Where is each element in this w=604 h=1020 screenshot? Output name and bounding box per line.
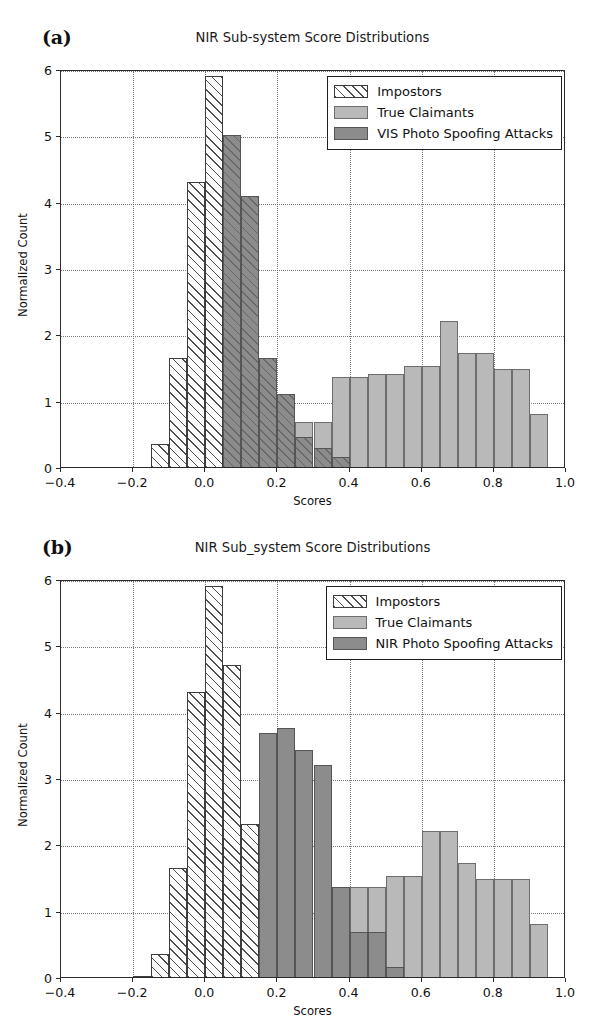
panel-a: (a) NIR Sub-system Score Distributions S… [0, 0, 604, 510]
xaxis-tick-mark [132, 468, 133, 472]
xaxis-tick-label: −0.2 [117, 475, 148, 490]
xaxis-tick-mark [132, 978, 133, 982]
yaxis-tick-mark [56, 335, 60, 336]
gridline-horizontal [61, 204, 564, 205]
legend-swatch-impostors-icon [334, 85, 368, 98]
histogram-bar [422, 831, 440, 977]
xaxis-tick-mark [204, 468, 205, 472]
histogram-bar [386, 967, 404, 977]
xaxis-tick-label: 0.4 [339, 985, 359, 1000]
yaxis-tick-label: 5 [30, 129, 52, 144]
xaxis-tick-label: 0.8 [483, 475, 503, 490]
histogram-bar [223, 665, 241, 977]
histogram-bar [458, 863, 476, 977]
xaxis-tick-label: 0.2 [266, 985, 286, 1000]
histogram-bar [205, 586, 223, 977]
xaxis-tick-label: −0.4 [45, 475, 76, 490]
histogram-bar [494, 879, 512, 977]
xaxis-tick-mark [421, 978, 422, 982]
histogram-bar [476, 879, 494, 977]
xaxis-tick-label: 0.6 [411, 985, 431, 1000]
panel-a-xaxis-label: Scores [60, 494, 565, 508]
yaxis-tick-label: 3 [30, 772, 52, 787]
histogram-bar [368, 374, 386, 467]
histogram-bar [332, 457, 350, 467]
xaxis-tick-mark [349, 978, 350, 982]
xaxis-tick-mark [60, 468, 61, 472]
gridline-horizontal [61, 581, 564, 582]
histogram-bar [259, 358, 277, 467]
legend-swatch-true-icon [334, 106, 368, 119]
xaxis-tick-label: −0.2 [117, 985, 148, 1000]
yaxis-tick-label: 4 [30, 705, 52, 720]
xaxis-tick-mark [493, 468, 494, 472]
yaxis-tick-label: 1 [30, 394, 52, 409]
panel-b-legend: ImpostorsTrue ClaimantsNIR Photo Spoofin… [326, 586, 562, 660]
histogram-bar [295, 750, 313, 977]
legend-entry: Impostors [334, 81, 553, 102]
xaxis-tick-label: 1.0 [555, 475, 575, 490]
xaxis-tick-label: 0.0 [194, 475, 214, 490]
xaxis-tick-mark [204, 978, 205, 982]
figure-root: (a) NIR Sub-system Score Distributions S… [0, 0, 604, 1020]
histogram-bar [295, 437, 313, 467]
gridline-horizontal [61, 71, 564, 72]
histogram-bar [404, 366, 422, 467]
histogram-bar [151, 954, 169, 977]
yaxis-tick-mark [56, 269, 60, 270]
panel-a-yaxis-label: Normalized Count [16, 213, 30, 317]
histogram-bar [368, 932, 386, 977]
xaxis-tick-mark [60, 978, 61, 982]
xaxis-tick-label: 0.6 [411, 475, 431, 490]
histogram-bar [512, 879, 530, 977]
yaxis-tick-mark [56, 978, 60, 979]
yaxis-tick-label: 0 [30, 461, 52, 476]
xaxis-tick-label: 0.8 [483, 985, 503, 1000]
yaxis-tick-mark [56, 203, 60, 204]
yaxis-tick-mark [56, 646, 60, 647]
histogram-bar [241, 196, 259, 467]
xaxis-tick-label: −0.4 [45, 985, 76, 1000]
histogram-bar [169, 868, 187, 977]
gridline-horizontal [61, 270, 564, 271]
yaxis-tick-label: 0 [30, 971, 52, 986]
histogram-bar [223, 135, 241, 467]
histogram-bar [332, 887, 350, 977]
gridline-horizontal [61, 714, 564, 715]
legend-swatch-spoof-icon [333, 637, 367, 650]
histogram-bar [440, 321, 458, 467]
histogram-bar [314, 448, 332, 467]
histogram-bar [422, 366, 440, 467]
legend-label: NIR Photo Spoofing Attacks [376, 636, 553, 651]
histogram-bar [133, 976, 151, 977]
histogram-bar [241, 824, 259, 977]
histogram-bar [530, 414, 548, 467]
yaxis-tick-mark [56, 845, 60, 846]
legend-label: Impostors [376, 594, 441, 609]
histogram-bar [187, 692, 205, 977]
yaxis-tick-mark [56, 402, 60, 403]
panel-b: (b) NIR Sub_system Score Distributions S… [0, 510, 604, 1020]
histogram-bar [440, 831, 458, 977]
yaxis-tick-mark [56, 468, 60, 469]
histogram-bar [404, 876, 422, 977]
histogram-bar [187, 182, 205, 467]
xaxis-tick-mark [565, 468, 566, 472]
histogram-bar [530, 924, 548, 977]
histogram-bar [169, 358, 187, 467]
legend-swatch-spoof-icon [334, 127, 368, 140]
legend-swatch-impostors-icon [333, 595, 367, 608]
yaxis-tick-label: 6 [30, 63, 52, 78]
histogram-bar [494, 369, 512, 467]
legend-label: Impostors [377, 84, 442, 99]
xaxis-tick-mark [349, 468, 350, 472]
legend-entry: True Claimants [334, 102, 553, 123]
yaxis-tick-mark [56, 779, 60, 780]
yaxis-tick-label: 2 [30, 328, 52, 343]
legend-label: VIS Photo Spoofing Attacks [377, 126, 553, 141]
xaxis-tick-label: 1.0 [555, 985, 575, 1000]
gridline-vertical [133, 71, 134, 467]
xaxis-tick-mark [565, 978, 566, 982]
legend-swatch-true-icon [333, 616, 367, 629]
yaxis-tick-mark [56, 713, 60, 714]
